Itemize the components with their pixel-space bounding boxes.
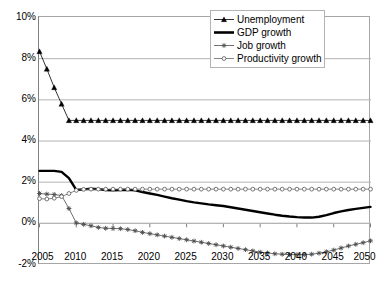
data-point-marker-asterisk — [89, 223, 94, 228]
data-point-marker-circle — [133, 187, 137, 191]
data-point-marker-asterisk — [353, 242, 358, 247]
y-axis-tick-label: 8% — [2, 53, 36, 63]
series-productivity-growth — [38, 187, 373, 201]
data-point-marker-circle — [354, 187, 358, 191]
data-point-marker-circle — [89, 187, 93, 191]
data-point-marker-circle — [280, 187, 284, 191]
data-point-marker-circle — [361, 187, 365, 191]
data-point-marker-asterisk — [133, 228, 138, 233]
x-axis-tick-label: 2015 — [101, 251, 123, 263]
data-point-marker-circle — [60, 195, 64, 199]
data-point-marker-circle — [74, 189, 78, 193]
data-point-marker-circle — [236, 187, 240, 191]
x-axis-tick-label: 2040 — [285, 251, 307, 263]
data-point-marker-circle — [288, 187, 292, 191]
data-point-marker-asterisk — [361, 240, 366, 245]
data-point-marker-asterisk — [221, 244, 226, 249]
series-job-growth — [37, 191, 373, 257]
x-axis-tick-label: 2020 — [138, 251, 160, 263]
data-point-marker-circle — [119, 187, 123, 191]
data-point-marker-circle — [251, 187, 255, 191]
series-gdp-growth — [40, 171, 371, 218]
y-axis-tick-label: 10% — [2, 12, 36, 22]
data-point-marker-asterisk — [192, 239, 197, 244]
data-point-marker-asterisk — [170, 235, 175, 240]
data-point-marker-asterisk — [339, 246, 344, 251]
data-point-marker-asterisk — [214, 242, 219, 247]
x-axis-tick-label: 2010 — [64, 251, 86, 263]
legend-marker-asterisk-icon — [213, 39, 235, 52]
data-point-marker-circle — [67, 192, 71, 196]
data-point-marker-circle — [295, 187, 299, 191]
data-point-marker-asterisk — [67, 206, 72, 211]
data-point-marker-circle — [369, 187, 373, 191]
legend-item: GDP growth — [213, 26, 321, 39]
data-point-marker-asterisk — [206, 241, 211, 246]
data-point-marker-asterisk — [111, 226, 116, 231]
data-point-marker-circle — [324, 187, 328, 191]
series-line — [40, 189, 371, 199]
y-axis-labels: 10%8%6%4%2%0%-2% — [0, 0, 36, 287]
legend-marker-triangle-icon — [213, 13, 235, 26]
data-point-marker-circle — [141, 187, 145, 191]
data-point-marker-circle — [339, 187, 343, 191]
data-point-marker-asterisk — [177, 236, 182, 241]
legend-label: GDP growth — [235, 27, 291, 38]
chart-legend: UnemploymentGDP growthJob growthProducti… — [210, 10, 325, 68]
data-point-marker-triangle — [59, 101, 64, 106]
x-axis-tick-label: 2025 — [174, 251, 196, 263]
x-axis-labels: 2005201020152020202520302035204020452050 — [38, 251, 370, 267]
y-axis-tick-label: 6% — [2, 94, 36, 104]
legend-label: Unemployment — [235, 14, 304, 25]
data-point-marker-circle — [332, 187, 336, 191]
data-point-marker-circle — [126, 187, 130, 191]
legend-label: Job growth — [235, 40, 286, 51]
data-point-marker-circle — [177, 187, 181, 191]
y-axis-tick-label: 2% — [2, 176, 36, 186]
data-point-marker-circle — [199, 187, 203, 191]
data-point-marker-circle — [52, 196, 56, 200]
data-point-marker-triangle — [44, 66, 49, 71]
data-point-marker-asterisk — [37, 191, 42, 196]
data-point-marker-asterisk — [368, 238, 373, 243]
data-point-marker-asterisk — [81, 222, 86, 227]
data-point-marker-circle — [221, 187, 225, 191]
data-point-marker-circle — [310, 187, 314, 191]
data-point-marker-circle — [96, 187, 100, 191]
data-point-marker-asterisk — [103, 226, 108, 231]
data-point-marker-asterisk — [228, 245, 233, 250]
data-point-marker-circle — [185, 187, 189, 191]
data-point-marker-circle — [347, 187, 351, 191]
data-point-marker-asterisk — [162, 234, 167, 239]
x-axis-tick-label: 2035 — [248, 251, 270, 263]
data-point-marker-asterisk — [96, 225, 101, 230]
data-point-marker-circle — [82, 187, 86, 191]
data-point-marker-circle — [266, 187, 270, 191]
data-point-marker-circle — [214, 187, 218, 191]
data-point-marker-triangle — [37, 49, 42, 54]
x-axis-tick-label: 2005 — [31, 251, 53, 263]
y-axis-tick-label: 4% — [2, 135, 36, 145]
data-point-marker-asterisk — [44, 192, 49, 197]
data-point-marker-asterisk — [147, 231, 152, 236]
legend-marker-none-icon — [213, 26, 235, 39]
data-point-marker-asterisk — [184, 237, 189, 242]
data-point-marker-asterisk — [155, 232, 160, 237]
data-point-marker-circle — [207, 187, 211, 191]
data-point-marker-circle — [155, 187, 159, 191]
data-point-marker-asterisk — [125, 227, 130, 232]
data-point-marker-asterisk — [199, 240, 204, 245]
chart-container: 10%8%6%4%2%0%-2% 20052010201520202025203… — [0, 0, 385, 287]
data-point-marker-asterisk — [222, 43, 227, 48]
data-point-marker-circle — [38, 197, 42, 201]
x-axis-tick-label: 2050 — [353, 251, 375, 263]
legend-marker-circle-icon — [213, 52, 235, 65]
x-axis-tick-label: 2030 — [211, 251, 233, 263]
data-point-marker-circle — [302, 187, 306, 191]
data-point-marker-asterisk — [118, 226, 123, 231]
data-point-marker-circle — [148, 187, 152, 191]
legend-item: Productivity growth — [213, 52, 321, 65]
data-point-marker-circle — [45, 197, 49, 201]
series-line — [40, 193, 371, 254]
legend-label: Productivity growth — [235, 53, 321, 64]
